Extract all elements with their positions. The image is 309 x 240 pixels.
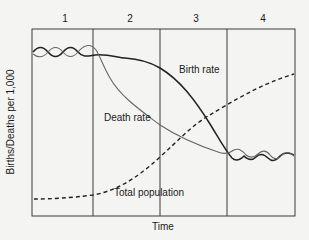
stage-2-label: 2 <box>127 13 133 24</box>
chart-canvas <box>0 0 309 240</box>
birth-rate-annotation: Birth rate <box>179 64 220 75</box>
stage-4-label: 4 <box>260 13 266 24</box>
demographic-transition-diagram: 1 2 3 4 Birth rate Death rate Total popu… <box>0 0 309 240</box>
death-rate-annotation: Death rate <box>104 112 151 123</box>
stage-1-label: 1 <box>62 13 68 24</box>
x-axis-label: Time <box>152 221 174 232</box>
total-population-annotation: Total population <box>114 187 184 198</box>
stage-3-label: 3 <box>193 13 199 24</box>
death-rate-line <box>33 46 294 159</box>
total-population-line <box>34 74 294 199</box>
birth-rate-line <box>33 48 294 161</box>
y-axis-label: Births/Deaths per 1,000 <box>5 69 16 174</box>
